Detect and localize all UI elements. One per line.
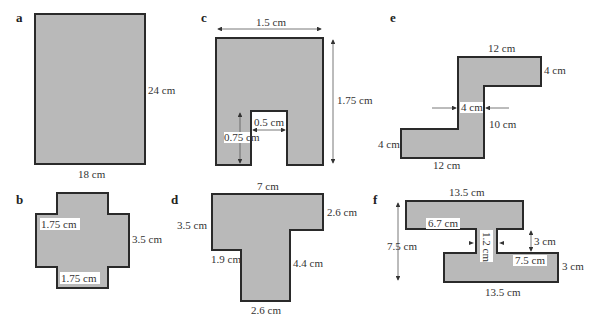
dim-gap: 3 cm	[534, 235, 556, 247]
dim-top-right: 4 cm	[544, 64, 566, 76]
dim-top: 13.5 cm	[449, 186, 485, 198]
dim-left-step: 1.9 cm	[211, 253, 241, 265]
dim-notch-width: 0.5 cm	[254, 116, 284, 128]
dim-top: 7 cm	[257, 180, 279, 192]
panel-c: c 1.5 cm 1.75 cm 0.5 cm 0.75 cm	[201, 10, 373, 165]
dim-inner-top: 1.75 cm	[41, 218, 77, 230]
dim-width: 18 cm	[78, 168, 106, 180]
panel-e: e 12 cm 4 cm 4 cm 10 cm 4 cm 12 cm	[378, 10, 566, 171]
t-shape	[212, 194, 323, 301]
panel-label-d: d	[171, 192, 179, 207]
dim-notch-height: 0.75 cm	[224, 131, 260, 143]
dim-top: 12 cm	[488, 42, 516, 54]
dim-stem-right: 4.4 cm	[293, 257, 323, 269]
panel-label-f: f	[373, 192, 378, 207]
arrowhead-left	[469, 241, 474, 245]
dim-stem-width: 4 cm	[461, 101, 483, 113]
panel-label-a: a	[16, 10, 23, 25]
dim-left: 3.5 cm	[177, 219, 207, 231]
dim-inner-top: 6.7 cm	[428, 217, 458, 229]
dim-stem-width: 1.2 cm	[481, 232, 493, 262]
dim-right: 3 cm	[562, 260, 584, 272]
panel-a: a 24 cm 18 cm	[16, 10, 176, 180]
dim-bottom-left: 4 cm	[378, 138, 400, 150]
panel-label-b: b	[16, 192, 23, 207]
panel-d: d 7 cm 2.6 cm 3.5 cm 1.9 cm 4.4 cm 2.6 c…	[171, 180, 357, 316]
dim-bottom: 13.5 cm	[485, 286, 521, 298]
dim-inner-bottom: 7.5 cm	[515, 254, 545, 266]
dim-right: 3.5 cm	[132, 233, 162, 245]
dim-total-height: 7.5 cm	[387, 240, 417, 252]
panel-label-e: e	[390, 10, 396, 25]
dim-bottom: 12 cm	[433, 159, 461, 171]
notched-rectangle-shape	[216, 38, 323, 165]
panel-f: f 13.5 cm 7.5 cm 6.7 cm 1.2 cm 3 cm 7.5 …	[373, 186, 584, 298]
rectangle-shape	[35, 14, 145, 164]
dim-stem-height: 10 cm	[489, 118, 517, 130]
composite-shapes-figure: a 24 cm 18 cm c 1.5 cm 1.75 cm 0.5 cm 0.…	[0, 0, 593, 320]
panel-label-c: c	[201, 10, 207, 25]
dim-right-top: 2.6 cm	[327, 206, 357, 218]
dim-height: 1.75 cm	[337, 94, 373, 106]
dim-bottom: 2.6 cm	[251, 304, 281, 316]
dim-inner-bottom: 1.75 cm	[61, 272, 97, 284]
dim-width: 1.5 cm	[256, 16, 286, 28]
dim-height: 24 cm	[148, 84, 176, 96]
arrowhead-right	[499, 241, 504, 245]
panel-b: b 1.75 cm 3.5 cm 1.75 cm	[16, 192, 162, 288]
